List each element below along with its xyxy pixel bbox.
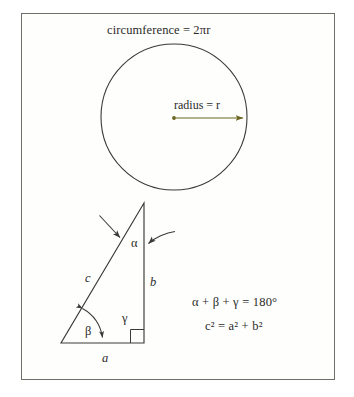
angle-label-beta: β xyxy=(85,325,91,338)
figure-page: circumference = 2πr radius = r c b a α β… xyxy=(0,0,354,397)
alpha-pointer-left-arrow xyxy=(100,216,121,238)
circumference-title: circumference = 2πr xyxy=(107,24,210,37)
equation-angle-sum: α + β + γ = 180° xyxy=(192,296,277,309)
angle-label-alpha: α xyxy=(131,237,138,250)
alpha-pointer-right-arrow xyxy=(149,232,176,244)
triangle-shape xyxy=(61,203,144,343)
right-angle-marker xyxy=(131,330,145,344)
equation-pythagorean: c² = a² + b² xyxy=(205,320,263,333)
side-label-c: c xyxy=(85,272,91,285)
radius-label: radius = r xyxy=(174,99,220,111)
angle-label-gamma: γ xyxy=(122,312,128,325)
geometry-illustration xyxy=(0,0,354,397)
side-label-b: b xyxy=(150,276,156,289)
side-label-a: a xyxy=(102,352,108,365)
circle-center-dot xyxy=(172,116,176,120)
